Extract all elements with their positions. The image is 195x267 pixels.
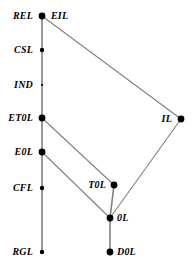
node-d0l[interactable] [107,249,114,256]
edge-IL-0L [110,119,181,218]
node-label-cfl: CFL [13,183,33,193]
nodes-layer [39,13,185,256]
node-csl[interactable] [40,48,44,52]
edge-ET0L-T0L [42,118,114,185]
node-label-rel: REL [13,11,33,21]
node-label-0l: 0L [117,213,129,223]
diagram-canvas [0,0,195,267]
node-label-il: IL [162,114,172,124]
node-0l[interactable] [107,215,114,222]
node-label-rgl: RGL [12,247,33,257]
node-il[interactable] [178,116,185,123]
node-ind[interactable] [41,84,43,86]
node-label-ind: IND [14,80,33,90]
node-label-d0l: D0L [117,247,136,257]
node-et0l[interactable] [39,115,46,122]
node-cfl[interactable] [40,186,44,190]
node-rgl[interactable] [40,250,44,254]
node-label-csl: CSL [14,45,33,55]
node-label-et0l: ET0L [8,113,33,123]
node-e0l[interactable] [39,149,46,156]
language-hierarchy-diagram: RELEILCSLINDET0LE0LCFLRGLILT0L0LD0L [0,0,195,267]
node-label-eil: EIL [51,11,68,21]
edge-REL-IL [42,16,181,119]
node-t0l[interactable] [111,182,118,189]
node-rel[interactable] [39,13,46,20]
node-label-e0l: E0L [15,147,33,157]
node-label-t0l: T0L [88,180,106,190]
